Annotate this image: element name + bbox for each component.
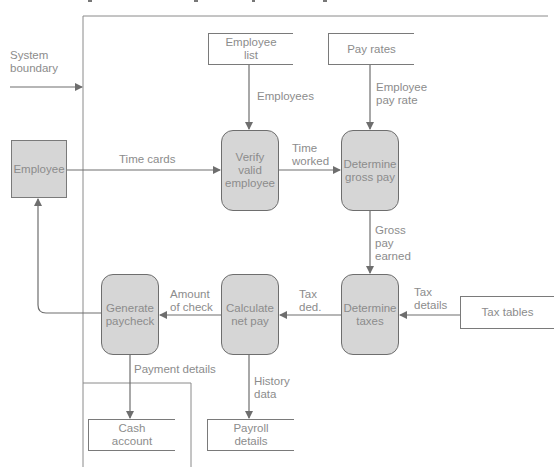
store-pay-rates[interactable]: Pay rates <box>328 33 414 65</box>
flow-label-payment-details: Payment details <box>134 363 216 376</box>
entity-label: Tax tables <box>482 306 534 319</box>
flow-label-time-cards: Time cards <box>119 153 175 166</box>
process-determine-taxes[interactable]: Determine taxes <box>341 274 399 355</box>
flow-label-employees: Employees <box>257 90 314 103</box>
store-payroll-details[interactable]: Payroll details <box>207 419 294 451</box>
process-label: Generate paycheck <box>106 302 155 328</box>
system-boundary-line <box>83 16 548 467</box>
flow-label-employee-pay-rate: Employee pay rate <box>376 81 427 107</box>
flow-label-history-data: History data <box>254 375 290 401</box>
process-label: Verify valid employee <box>225 151 275 190</box>
process-label: Calculate net pay <box>226 302 274 328</box>
store-cash-account[interactable]: Cash account <box>88 419 175 451</box>
flow-label-tax-ded: Tax ded. <box>299 288 321 314</box>
store-employee-list[interactable]: Employee list <box>208 33 293 65</box>
process-verify-valid-employee[interactable]: Verify valid employee <box>221 130 279 211</box>
process-label: Determine gross pay <box>343 158 396 184</box>
store-label: Employee list <box>225 36 276 62</box>
entity-tax-tables[interactable]: Tax tables <box>460 296 554 329</box>
store-label: Pay rates <box>347 43 396 56</box>
entity-label: Employee <box>13 163 64 175</box>
process-determine-gross-pay[interactable]: Determine gross pay <box>341 130 399 211</box>
flow-label-amount-of-check: Amount of check <box>170 288 213 314</box>
process-label: Determine taxes <box>343 302 396 328</box>
system-boundary-label: System boundary <box>10 49 58 75</box>
process-generate-paycheck[interactable]: Generate paycheck <box>101 274 159 355</box>
flow-label-time-worked: Time worked <box>292 142 329 168</box>
store-label: Cash account <box>112 422 152 448</box>
store-label: Payroll details <box>233 422 268 448</box>
process-calculate-net-pay[interactable]: Calculate net pay <box>221 274 279 355</box>
flow-label-tax-details: Tax details <box>414 286 447 312</box>
entity-employee[interactable]: Employee <box>11 140 67 198</box>
flow-label-gross-pay-earned: Gross pay earned <box>375 224 411 263</box>
